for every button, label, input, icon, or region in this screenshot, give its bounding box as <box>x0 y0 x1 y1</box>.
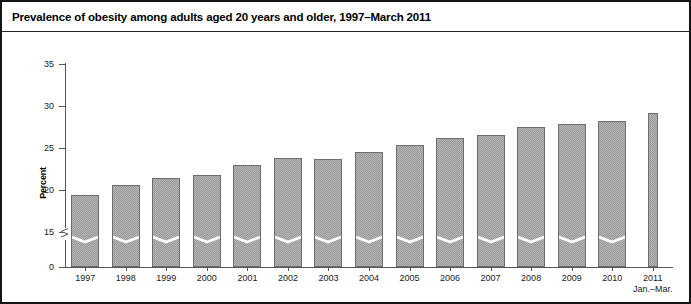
bar <box>274 158 302 267</box>
x-axis-tick <box>531 267 532 271</box>
bar <box>517 127 545 267</box>
x-axis-tick <box>369 267 370 271</box>
x-axis-tick-label: 1998 <box>106 273 147 283</box>
y-axis-tick-label: 20 <box>30 185 54 195</box>
x-axis-tick-label: 1997 <box>65 273 106 283</box>
y-axis-label: Percent <box>38 153 48 213</box>
x-axis-tick <box>491 267 492 271</box>
y-axis-tick-label: 0 <box>30 262 54 272</box>
bar <box>152 178 180 267</box>
bar <box>436 138 464 267</box>
x-axis-tick <box>126 267 127 271</box>
x-axis-tick <box>85 267 86 271</box>
x-axis-tick-label: 2009 <box>551 273 592 283</box>
x-axis-tick <box>410 267 411 271</box>
bar <box>598 121 626 267</box>
bar <box>112 185 140 267</box>
x-axis-tick <box>450 267 451 271</box>
x-axis-tick-label: 2000 <box>187 273 228 283</box>
x-axis-tick <box>247 267 248 271</box>
bar <box>71 195 99 267</box>
y-axis-tick-label: 35 <box>30 59 54 69</box>
bar <box>355 152 383 267</box>
bars-layer <box>65 33 673 267</box>
bar <box>233 165 261 267</box>
x-axis-tick <box>572 267 573 271</box>
y-axis-tick-label: 15 <box>30 227 54 237</box>
bar <box>477 135 505 267</box>
x-axis-tick <box>328 267 329 271</box>
x-axis-tick-label: 2005 <box>389 273 430 283</box>
x-axis-tick <box>653 267 654 271</box>
x-axis-tick-label: 2008 <box>511 273 552 283</box>
x-axis-tick-label: 2001 <box>227 273 268 283</box>
x-axis-tick-label: 2007 <box>470 273 511 283</box>
x-axis-tick-label: 2010 <box>592 273 633 283</box>
x-axis-tick-label: 2011 <box>632 273 673 283</box>
x-axis-tick-label: 2006 <box>430 273 471 283</box>
bar <box>648 113 658 267</box>
plot-area: Percent 01520253035 19971998199920002001… <box>2 33 689 302</box>
bar <box>193 175 221 267</box>
x-axis-tick <box>166 267 167 271</box>
bar <box>396 145 424 267</box>
x-axis-tick-label: 2002 <box>268 273 309 283</box>
chart-title-bar: Prevalence of obesity among adults aged … <box>2 2 689 32</box>
x-axis-tick <box>207 267 208 271</box>
y-axis-tick-label: 30 <box>30 101 54 111</box>
page-title: Prevalence of obesity among adults aged … <box>2 11 431 23</box>
x-axis-tick-label: 1999 <box>146 273 187 283</box>
x-axis-tick <box>612 267 613 271</box>
chart-figure: Prevalence of obesity among adults aged … <box>0 0 691 304</box>
x-axis-tick-label: 2004 <box>349 273 390 283</box>
x-axis-tick-sublabel: Jan.–Mar. <box>632 284 673 294</box>
x-axis-tick-label: 2003 <box>308 273 349 283</box>
bar <box>314 159 342 267</box>
y-axis-tick-label: 25 <box>30 143 54 153</box>
y-axis-tick <box>59 267 66 268</box>
bar <box>558 124 586 267</box>
x-axis-tick <box>288 267 289 271</box>
